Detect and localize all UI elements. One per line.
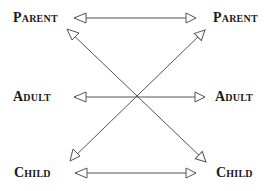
arrowhead-child-left [75, 168, 87, 178]
arrowhead-diag-bottom-left [70, 149, 80, 161]
node-adult-left: Adult [13, 90, 51, 104]
node-adult-right: Adult [215, 90, 253, 104]
arrowhead-parent-left [74, 13, 86, 23]
arrowhead-adult-left [74, 92, 86, 102]
node-child-left: Child [14, 166, 51, 180]
node-parent-right: Parent [213, 11, 258, 25]
node-parent-left: Parent [13, 11, 58, 25]
node-child-right: Child [216, 166, 253, 180]
